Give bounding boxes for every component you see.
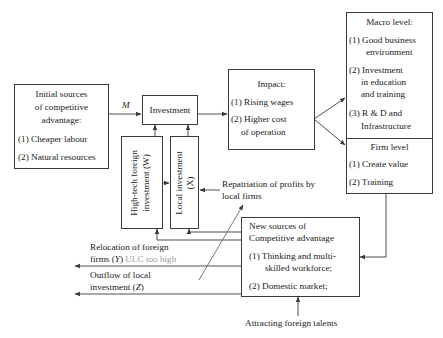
local-investment-box: Local investment (X) xyxy=(170,136,199,229)
macro-item-2-cont-1: in education xyxy=(361,77,406,88)
new-sources-item-2: (2) Domestic market; xyxy=(249,281,328,292)
macro-item-1: (1) Good business xyxy=(349,35,416,46)
investment-box: Investment xyxy=(142,95,198,125)
new-sources-item-1: (1) Thinking and multi- xyxy=(249,251,336,262)
initial-sources-item-2: (2) Natural resources xyxy=(18,152,96,163)
new-sources-box: New sources of Competitive advantage (1)… xyxy=(241,217,360,297)
macro-item-2: (2) Investment xyxy=(349,65,403,76)
initial-sources-title-1: Initial sources xyxy=(15,89,108,100)
high-tech-foreign-investment-box: High-tech foreign investment (W) xyxy=(121,136,163,229)
macro-item-1-cont: environment xyxy=(366,47,412,58)
macro-item-3-cont: Infrastructure xyxy=(361,121,411,132)
attracting-foreign-talents-label: Attracting foreign talents xyxy=(245,318,337,329)
initial-sources-box: Initial sources of competitive advantage… xyxy=(14,84,109,169)
local-investment-label-1: Local investment xyxy=(174,141,185,225)
new-sources-title-1: New sources of xyxy=(249,221,306,232)
firm-level-box: Firm level (1) Create value (2) Training xyxy=(346,138,433,194)
macro-level-box: Macro level: (1) Good business environme… xyxy=(346,12,433,139)
repatriation-label-1: Repatriation of profits by xyxy=(222,179,315,190)
impact-item-2: (2) Higher cost xyxy=(231,114,287,125)
new-sources-title-2: Competitive advantage xyxy=(249,233,334,244)
impact-item-2-cont: of operation xyxy=(241,127,286,138)
initial-sources-title-2: of competitive xyxy=(15,102,108,113)
impact-box: Impact: (1) Rising wages (2) Higher cost… xyxy=(228,69,315,150)
relocation-prefix: firms ( xyxy=(90,254,115,264)
m-label: M xyxy=(122,100,130,111)
outflow-label-2: investment (Z) xyxy=(90,282,144,293)
high-tech-label-1: High-tech foreign xyxy=(129,141,140,225)
high-tech-label-2: investment (W) xyxy=(141,141,152,225)
relocation-label-2: firms (Y) ULC too high xyxy=(90,254,176,265)
high-tech-label-2-text: investment (W) xyxy=(141,154,151,211)
macro-item-3: (3) R & D and xyxy=(349,108,402,119)
macro-item-2-cont-2: and training xyxy=(361,89,405,100)
relocation-suffix: ) xyxy=(120,254,123,264)
macro-level-title: Macro level: xyxy=(347,17,432,28)
initial-sources-item-1: (1) Cheaper labour xyxy=(18,134,87,145)
local-investment-label-2: (X) xyxy=(185,141,196,225)
outflow-label-1: Outflow of local xyxy=(90,270,151,281)
impact-title: Impact: xyxy=(229,79,314,90)
investment-label: Investment xyxy=(143,105,197,116)
impact-item-1: (1) Rising wages xyxy=(231,97,293,108)
new-sources-item-1-cont: skilled workforce; xyxy=(265,263,332,274)
initial-sources-title-3: advantage: xyxy=(15,115,108,126)
firm-item-1: (1) Create value xyxy=(349,159,408,170)
firm-item-2: (2) Training xyxy=(349,177,393,188)
outflow-suffix: ) xyxy=(141,282,144,292)
outflow-prefix: investment ( xyxy=(90,282,136,292)
ulc-note: ULC too high xyxy=(125,254,176,264)
relocation-label-1: Relocation of foreign xyxy=(90,242,169,253)
firm-level-title: Firm level xyxy=(347,142,432,153)
repatriation-label-2: local firms xyxy=(222,191,262,202)
